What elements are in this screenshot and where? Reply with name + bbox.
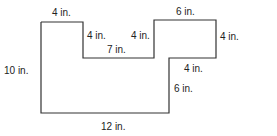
label-left-height: 10 in. (4, 66, 28, 76)
label-right-height: 4 in. (220, 32, 239, 42)
label-left-notch-depth: 4 in. (87, 31, 106, 41)
label-top-left-width: 4 in. (52, 8, 71, 18)
label-notch-width: 7 in. (107, 45, 126, 55)
label-step-width: 4 in. (184, 64, 203, 74)
composite-shape (0, 0, 277, 136)
label-lower-right-height: 6 in. (174, 84, 193, 94)
label-top-right-width: 6 in. (176, 7, 195, 17)
label-bottom-width: 12 in. (101, 122, 125, 132)
label-right-notch-depth: 4 in. (131, 31, 150, 41)
